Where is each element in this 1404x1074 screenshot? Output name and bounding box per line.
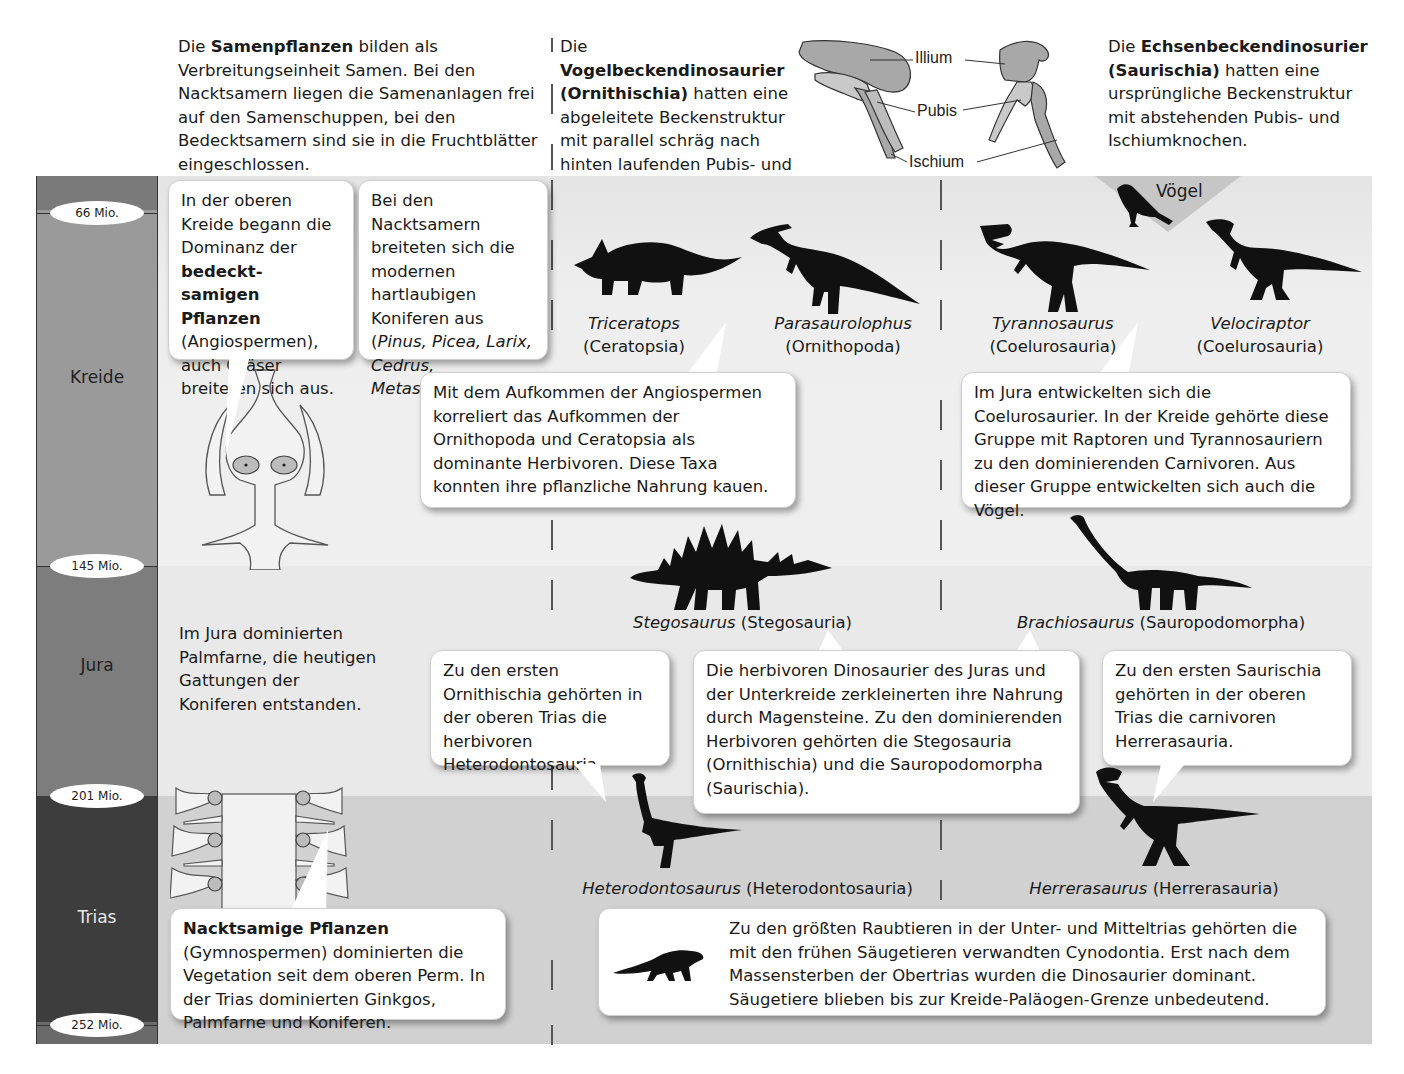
- bubble-angiosperms: In der oberen Kreide begann die Dominanz…: [168, 180, 354, 360]
- label-heterodontosaurus: Heterodontosaurus (Heterodontosauria): [570, 877, 925, 900]
- group: (Coelurosauria): [1197, 337, 1324, 356]
- timecol-kreide: [36, 210, 158, 566]
- bubble-first-saurischia: Zu den ersten Saurischia gehörten in der…: [1102, 650, 1352, 766]
- term-nacktsamige-pflanzen: Nacktsamige Pflanzen: [183, 919, 389, 938]
- group: (Ornithopoda): [785, 337, 901, 356]
- seed-plants-intro: Die Samenpflanzen bilden als Verbreitung…: [178, 35, 553, 176]
- boundary-201: 201 Mio.: [50, 784, 144, 808]
- parasaurolophus-silhouette-icon: [748, 222, 923, 317]
- herrerasaurus-silhouette-icon: [1094, 766, 1262, 874]
- boundary-66: 66 Mio.: [50, 201, 144, 225]
- bubble-first-ornithischia: Zu den ersten Ornithischia gehörten in d…: [430, 650, 670, 766]
- divider: [551, 144, 553, 170]
- pelvis-diagram: Illium Pubis Ischium: [795, 30, 1105, 175]
- label-parasaurolophus: Parasaurolophus(Ornithopoda): [768, 312, 918, 358]
- ischium-label: Ischium: [909, 153, 964, 170]
- group: (Coelurosauria): [990, 337, 1117, 356]
- period-jura: Jura: [36, 655, 158, 675]
- pubis-label: Pubis: [917, 102, 957, 119]
- bubble-coelurosaurs: Im Jura entwickelten sich die Coelurosau…: [961, 372, 1351, 508]
- label-herrerasaurus: Herrerasaurus (Herrerasauria): [1015, 877, 1293, 900]
- ornithischia-intro: Die Vogelbeckendinosaurier (Ornithischia…: [560, 35, 805, 200]
- saurischian-pelvis-icon: [989, 41, 1065, 168]
- text: Bei den Nacktsamern breiteten sich die m…: [371, 191, 515, 351]
- genus: Herrerasaurus: [1029, 879, 1147, 898]
- term-samenpflanzen: Samenpflanzen: [211, 37, 354, 56]
- velociraptor-silhouette-icon: [1204, 218, 1364, 303]
- genus: Parasaurolophus: [774, 314, 912, 333]
- bubble-cynodontia: Zu den größten Raubtieren in der Unter- …: [598, 908, 1326, 1016]
- cynodont-silhouette-icon: [611, 945, 707, 985]
- timecol-jura: [36, 566, 158, 796]
- bubble-gymnosperms: Nacktsamige Pflanzen (Gymnospermen) domi…: [170, 908, 506, 1020]
- group: (Sauropodomorpha): [1134, 613, 1305, 632]
- group: (Herrerasauria): [1147, 879, 1278, 898]
- ornithischian-pelvis-icon: [799, 41, 911, 158]
- bubble-gastroliths: Die herbivoren Dinosaurier des Juras und…: [693, 650, 1080, 814]
- label-tyrannosaurus: Tyrannosaurus(Coelurosauria): [983, 312, 1123, 358]
- genus: Velociraptor: [1210, 314, 1310, 333]
- illium-label: Illium: [915, 49, 952, 66]
- boundary-252: 252 Mio.: [50, 1013, 144, 1037]
- bubble-tail: [818, 630, 844, 652]
- cynodontia-text: Zu den größten Raubtieren in der Unter- …: [729, 917, 1319, 1011]
- divider: [551, 84, 553, 114]
- divider: [551, 38, 553, 52]
- group: (Heterodontosauria): [741, 879, 913, 898]
- text: In der oberen Kreide begann die Dominanz…: [181, 191, 331, 257]
- bubble-tail: [1016, 630, 1040, 652]
- genus: Heterodontosaurus: [582, 879, 741, 898]
- genus: Triceratops: [588, 314, 680, 333]
- boundary-145: 145 Mio.: [50, 554, 144, 578]
- bubble-ornithopoda-ceratopsia: Mit dem Aufkommen der Angiospermen korre…: [420, 372, 796, 508]
- brachiosaurus-silhouette-icon: [1068, 514, 1253, 612]
- text: Die: [1108, 37, 1141, 56]
- text: Die: [560, 37, 587, 56]
- text: bilden als Verbreitungseinheit Samen. Be…: [178, 37, 538, 174]
- text: (Gymnospermen) dominierten die Vegetatio…: [183, 943, 485, 1033]
- label-velociraptor: Velociraptor(Coelurosauria): [1190, 312, 1330, 358]
- text: Die: [178, 37, 211, 56]
- jura-plants-text: Im Jura dominierten Palmfarne, die heuti…: [179, 622, 379, 716]
- stegosaurus-silhouette-icon: [628, 518, 838, 613]
- saurischia-intro: Die Echsenbeckendinosurier (Saurischia) …: [1108, 35, 1373, 153]
- label-birds: Vögel: [1156, 181, 1203, 201]
- period-trias: Trias: [36, 907, 158, 927]
- group: (Ceratopsia): [583, 337, 685, 356]
- label-triceratops: Triceratops(Ceratopsia): [573, 312, 695, 358]
- genus: Stegosaurus: [633, 613, 736, 632]
- genus: Tyrannosaurus: [992, 314, 1113, 333]
- bubble-conifers: Bei den Nacktsamern breiteten sich die m…: [358, 180, 548, 360]
- period-kreide: Kreide: [36, 367, 158, 387]
- tyrannosaurus-silhouette-icon: [978, 222, 1153, 317]
- heterodontosaurus-silhouette-icon: [630, 772, 745, 872]
- triceratops-silhouette-icon: [572, 235, 744, 300]
- term-bedecktsamige-pflanzen: bedeckt-samigen Pflanzen: [181, 262, 263, 328]
- label-brachiosaurus: Brachiosaurus (Sauropodomorpha): [1002, 611, 1320, 634]
